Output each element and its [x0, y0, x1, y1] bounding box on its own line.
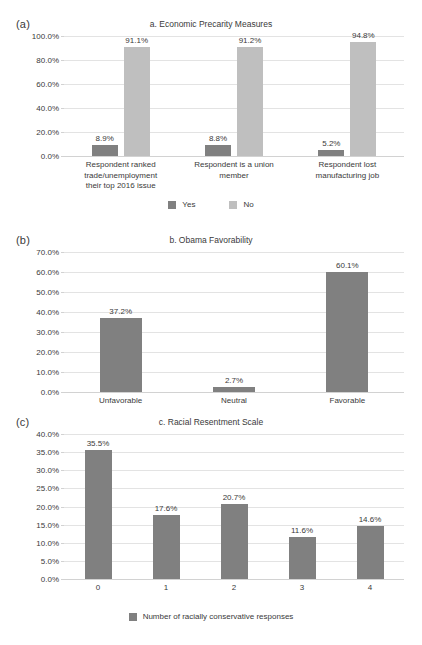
legend-swatch-icon: [229, 201, 237, 209]
y-tick-mark: [61, 488, 64, 489]
y-tick-mark: [61, 434, 64, 435]
y-tick-label: 40.0%: [36, 308, 59, 317]
panel-c-plot-area: 0.0%5.0%10.0%15.0%20.0%25.0%30.0%35.0%40…: [64, 434, 404, 579]
panel-a: (a) a. Economic Precarity Measures 0.0%2…: [0, 18, 422, 218]
y-tick-mark: [61, 452, 64, 453]
y-tick-mark: [61, 312, 64, 313]
y-tick-mark: [61, 470, 64, 471]
axis-baseline: [64, 156, 404, 157]
x-axis-label: 3: [268, 583, 336, 594]
bar-value-label: 20.7%: [223, 493, 246, 502]
x-axis-label: Unfavorable: [64, 396, 177, 407]
y-tick-mark: [61, 525, 64, 526]
x-axis-label: 2: [200, 583, 268, 594]
y-tick-mark: [61, 36, 64, 37]
legend-item[interactable]: Yes: [168, 200, 195, 209]
bar-value-label: 94.8%: [352, 31, 375, 40]
y-tick-label: 20.0%: [36, 348, 59, 357]
y-tick-label: 50.0%: [36, 288, 59, 297]
y-tick-label: 40.0%: [36, 104, 59, 113]
panel-b-title: b. Obama Favorability: [0, 235, 422, 245]
y-tick-label: 25.0%: [36, 484, 59, 493]
y-tick-label: 5.0%: [41, 556, 59, 565]
y-tick-label: 40.0%: [36, 430, 59, 439]
y-tick-label: 70.0%: [36, 248, 59, 257]
y-tick-label: 15.0%: [36, 520, 59, 529]
axis-baseline: [64, 579, 404, 580]
y-tick-mark: [61, 272, 64, 273]
y-tick-mark: [61, 292, 64, 293]
legend-item[interactable]: Number of racially conservative response…: [129, 612, 294, 621]
x-axis-label: Neutral: [177, 396, 290, 407]
y-tick-mark: [61, 543, 64, 544]
bar: 60.1%: [326, 272, 368, 392]
panel-b-plot-area: 0.0%10.0%20.0%30.0%40.0%50.0%60.0%70.0%3…: [64, 252, 404, 392]
bar-value-label: 8.9%: [96, 134, 114, 143]
y-tick-mark: [61, 252, 64, 253]
axis-baseline: [64, 392, 404, 393]
y-tick-label: 10.0%: [36, 538, 59, 547]
bar: 14.6%: [357, 526, 384, 579]
x-axis-label: Respondent lostmanufacturing job: [291, 160, 404, 181]
y-tick-mark: [61, 561, 64, 562]
y-tick-mark: [61, 60, 64, 61]
panel-a-legend: YesNo: [0, 200, 422, 209]
y-tick-mark: [61, 372, 64, 373]
y-tick-label: 0.0%: [41, 575, 59, 584]
panel-b: (b) b. Obama Favorability 0.0%10.0%20.0%…: [0, 234, 422, 404]
y-tick-label: 60.0%: [36, 80, 59, 89]
panel-c-title: c. Racial Resentment Scale: [0, 417, 422, 427]
y-tick-mark: [61, 84, 64, 85]
bar-value-label: 35.5%: [87, 439, 110, 448]
legend-label: Yes: [182, 200, 195, 209]
x-axis-label: Respondent is a unionmember: [177, 160, 290, 181]
gridline: [64, 252, 404, 253]
legend-label: Number of racially conservative response…: [143, 612, 294, 621]
y-tick-label: 60.0%: [36, 268, 59, 277]
y-tick-label: 20.0%: [36, 502, 59, 511]
panel-c-legend: Number of racially conservative response…: [0, 612, 422, 621]
y-tick-mark: [61, 156, 64, 157]
panel-c: (c) c. Racial Resentment Scale 0.0%5.0%1…: [0, 416, 422, 641]
gridline: [64, 488, 404, 489]
y-tick-mark: [61, 579, 64, 580]
bar-value-label: 91.2%: [239, 36, 262, 45]
y-tick-label: 80.0%: [36, 56, 59, 65]
bar: 8.9%: [92, 145, 118, 156]
x-axis-label: Respondent rankedtrade/unemploymenttheir…: [64, 160, 177, 192]
bar-value-label: 11.6%: [291, 526, 313, 535]
x-axis-label: Favorable: [291, 396, 404, 407]
bar-value-label: 8.8%: [209, 134, 227, 143]
gridline: [64, 434, 404, 435]
bar-value-label: 17.6%: [155, 504, 178, 513]
bar-value-label: 14.6%: [359, 515, 382, 524]
bar: 17.6%: [153, 515, 180, 579]
y-tick-label: 100.0%: [32, 32, 59, 41]
bar: 35.5%: [85, 450, 112, 579]
bar: 94.8%: [350, 42, 376, 156]
y-tick-label: 30.0%: [36, 328, 59, 337]
y-tick-label: 35.0%: [36, 448, 59, 457]
figure-root: (a) a. Economic Precarity Measures 0.0%2…: [0, 0, 422, 645]
bar: 37.2%: [100, 318, 142, 392]
gridline: [64, 470, 404, 471]
y-tick-mark: [61, 392, 64, 393]
y-tick-mark: [61, 332, 64, 333]
y-tick-mark: [61, 108, 64, 109]
bar: 8.8%: [205, 145, 231, 156]
bar-value-label: 91.1%: [125, 36, 148, 45]
bar-value-label: 60.1%: [336, 261, 359, 270]
x-axis-label: 4: [336, 583, 404, 594]
panel-a-title: a. Economic Precarity Measures: [0, 19, 422, 29]
bar: 5.2%: [318, 150, 344, 156]
y-tick-label: 20.0%: [36, 128, 59, 137]
gridline: [64, 452, 404, 453]
y-tick-label: 0.0%: [41, 388, 59, 397]
bar-value-label: 37.2%: [109, 307, 132, 316]
legend-item[interactable]: No: [229, 200, 253, 209]
bar: 11.6%: [289, 537, 316, 579]
x-axis-label: 0: [64, 583, 132, 594]
y-tick-label: 30.0%: [36, 466, 59, 475]
y-tick-mark: [61, 132, 64, 133]
legend-swatch-icon: [129, 613, 137, 621]
